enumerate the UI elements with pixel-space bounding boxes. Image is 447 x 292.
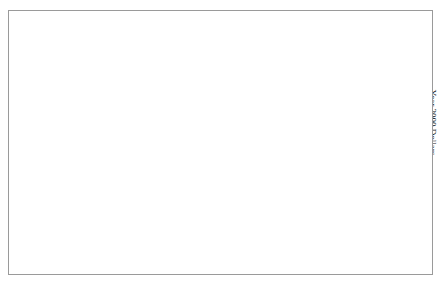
chart-frame-border bbox=[8, 10, 433, 275]
chart-figure: 5001,0001,5002,0002,5003,0003,500 9,9601… bbox=[0, 0, 447, 292]
